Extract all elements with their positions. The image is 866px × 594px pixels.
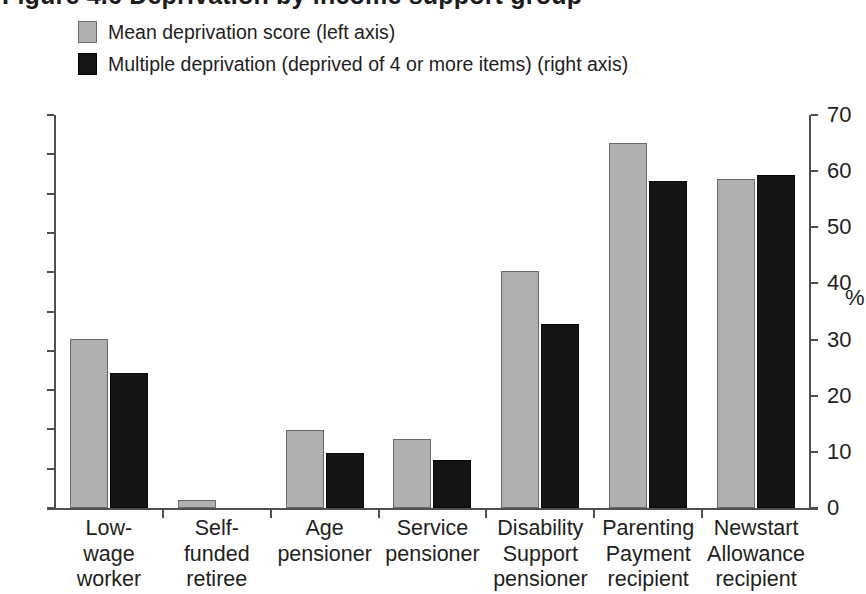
x-axis-category-label: Servicepensioner <box>379 516 487 567</box>
right-axis-tick-label: 70 <box>827 104 851 126</box>
legend-label-series-b: Multiple deprivation (deprived of 4 or m… <box>108 53 628 75</box>
bar-group <box>486 115 594 508</box>
bar-series-b <box>541 324 579 508</box>
right-axis-unit-label: % <box>845 285 865 311</box>
legend-label-series-a: Mean deprivation score (left axis) <box>108 21 395 43</box>
x-axis-category-label-line: Disability <box>486 516 594 542</box>
right-axis-tick <box>811 339 818 341</box>
right-axis-tick-label: 0 <box>827 497 839 519</box>
plot-area: 5.04.54.03.53.02.52.01.51.00.50 70605040… <box>55 115 810 508</box>
bar-series-a <box>70 339 108 508</box>
x-axis-category-label: DisabilitySupportpensioner <box>486 516 594 593</box>
right-axis-tick <box>811 395 818 397</box>
right-axis-tick-label: 30 <box>827 329 851 351</box>
right-axis-tick <box>811 114 818 116</box>
figure-title-cutoff: Figure 4.6 Deprivation by income support… <box>0 0 866 11</box>
x-axis-category-label-line: recipient <box>594 567 702 593</box>
x-axis-category-label-line: funded <box>163 542 271 568</box>
x-axis-category-label-line: Self- <box>163 516 271 542</box>
x-axis-category-label-line: recipient <box>702 567 810 593</box>
right-axis-tick-label: 20 <box>827 385 851 407</box>
x-axis-category-label: Low-wageworker <box>55 516 163 593</box>
left-axis-tick <box>47 507 54 509</box>
x-axis-category-label-line: pensioner <box>379 542 487 568</box>
x-axis-category-label-line: pensioner <box>486 567 594 593</box>
left-axis-tick <box>47 114 54 116</box>
bar-group <box>163 115 271 508</box>
bar-series-b <box>433 460 471 508</box>
x-axis-category-label-line: Service <box>379 516 487 542</box>
right-axis-tick-label: 50 <box>827 216 851 238</box>
x-axis-category-label-line: retiree <box>163 567 271 593</box>
right-axis-tick <box>811 451 818 453</box>
bar-group <box>271 115 379 508</box>
left-axis-tick <box>47 468 54 470</box>
legend-item-mean-deprivation-score: Mean deprivation score (left axis) <box>78 16 778 48</box>
x-axis-category-labels: Low-wageworkerSelf-fundedretireeAgepensi… <box>55 516 810 594</box>
chart-legend: Mean deprivation score (left axis) Multi… <box>78 16 778 80</box>
figure-title-text: Figure 4.6 Deprivation by income support… <box>2 0 582 10</box>
bar-series-a <box>286 430 324 508</box>
x-axis-category-label: Self-fundedretiree <box>163 516 271 593</box>
left-axis-tick <box>47 350 54 352</box>
right-axis-tick <box>811 226 818 228</box>
left-axis-tick <box>47 389 54 391</box>
left-axis-tick <box>47 153 54 155</box>
x-axis-category-label-line: Newstart <box>702 516 810 542</box>
right-axis-tick <box>811 507 818 509</box>
left-axis-tick <box>47 311 54 313</box>
right-axis-tick <box>811 282 818 284</box>
x-axis-category-label-line: Allowance <box>702 542 810 568</box>
x-axis-category-label-line: Support <box>486 542 594 568</box>
bar-series-b <box>649 181 687 508</box>
x-axis-category-label-line: pensioner <box>271 542 379 568</box>
x-axis-category-label-line: Age <box>271 516 379 542</box>
x-axis-category-label-line: Payment <box>594 542 702 568</box>
x-axis-category-label: ParentingPaymentrecipient <box>594 516 702 593</box>
right-axis-tick <box>811 170 818 172</box>
x-axis-category-label-line: worker <box>55 567 163 593</box>
legend-swatch-icon-series-a <box>78 21 97 43</box>
x-axis-category-label-line: Low- <box>55 516 163 542</box>
bar-series-a <box>609 143 647 508</box>
x-axis-category-label: Agepensioner <box>271 516 379 567</box>
bar-group <box>594 115 702 508</box>
bar-group <box>702 115 810 508</box>
x-axis-category-label-line: wage <box>55 542 163 568</box>
bar-series-a <box>178 500 216 508</box>
bar-series-b <box>757 175 795 508</box>
bar-group <box>379 115 487 508</box>
right-axis-tick-label: 10 <box>827 441 851 463</box>
x-axis-category-label-line: Parenting <box>594 516 702 542</box>
bar-series-b <box>326 453 364 508</box>
bar-series-a <box>501 271 539 508</box>
legend-item-multiple-deprivation: Multiple deprivation (deprived of 4 or m… <box>78 48 778 80</box>
bar-series-a <box>393 439 431 508</box>
legend-swatch-icon-series-b <box>78 53 97 75</box>
right-axis-tick-label: 60 <box>827 160 851 182</box>
left-axis-tick <box>47 428 54 430</box>
bar-series-b <box>110 373 148 508</box>
left-axis-tick <box>47 193 54 195</box>
bar-series-a <box>717 179 755 508</box>
deprivation-bar-chart-figure: Figure 4.6 Deprivation by income support… <box>0 0 866 594</box>
bar-group <box>55 115 163 508</box>
x-axis-category-label: NewstartAllowancerecipient <box>702 516 810 593</box>
left-axis-tick <box>47 232 54 234</box>
left-axis-tick <box>47 271 54 273</box>
